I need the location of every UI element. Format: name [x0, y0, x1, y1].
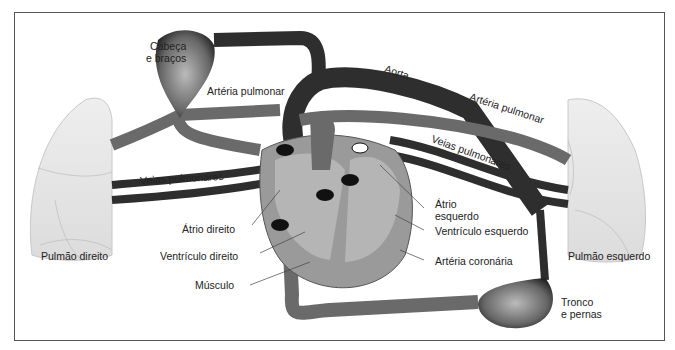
label-left-lung: Pulmão esquerdo [568, 250, 650, 262]
label-right-ventricle: Ventrículo direito [160, 250, 238, 262]
left-lung [568, 99, 645, 262]
label-trunk-legs: Tronco e pernas [561, 296, 602, 320]
label-pulmonary-artery-left: Artéria pulmonar [207, 85, 285, 97]
label-right-lung: Pulmão direito [41, 250, 108, 262]
label-head-arms: Cabeça e braços [146, 40, 186, 64]
valve-tricuspid [276, 144, 294, 156]
label-coronary-artery: Artéria coronária [435, 255, 513, 267]
label-muscle: Músculo [195, 279, 234, 291]
label-right-atrium: Átrio direito [182, 223, 235, 235]
label-left-atrium: Átrio esquerdo [435, 198, 479, 222]
trunk-legs-capillaries [478, 278, 553, 328]
right-lung [30, 98, 112, 260]
label-left-ventricle: Ventrículo esquerdo [435, 225, 528, 237]
